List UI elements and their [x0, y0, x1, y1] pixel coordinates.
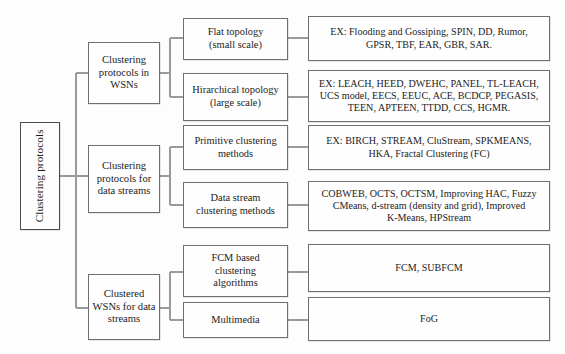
node-label: Primitive clustering methods [191, 135, 279, 160]
node-hirarchical-topology: Hirarchical topology (large scale) [183, 73, 288, 121]
clustering-protocols-diagram: Clustering protocols Clustering protocol… [0, 0, 565, 354]
node-label: Data stream clustering methods [193, 192, 278, 217]
leaf-label: COBWEB, OCTS, OCTSM, Improving HAC, Fuzz… [315, 188, 542, 225]
leaf-primitive-clustering-examples: EX: BIRCH, STREAM, CluStream, SPKMEANS, … [308, 125, 550, 170]
node-label: Hirarchical topology (large scale) [189, 84, 281, 109]
leaf-hirarchical-topology-examples: EX: LEACH, HEED, DWEHC, PANEL, TL-LEACH,… [308, 70, 550, 122]
leaf-label: EX: BIRCH, STREAM, CluStream, SPKMEANS, … [320, 135, 537, 160]
leaf-data-stream-clustering-examples: COBWEB, OCTS, OCTSM, Improving HAC, Fuzz… [308, 181, 550, 231]
node-label: Clustering protocols for data streams [94, 160, 154, 199]
node-clustering-protocols-for-data-streams: Clustering protocols for data streams [88, 145, 160, 213]
node-flat-topology: Flat topology (small scale) [183, 18, 288, 60]
node-root-label: Clustering protocols [33, 126, 47, 225]
node-clustered-wsns-for-data-streams: Clustered WSNs for data streams [88, 274, 160, 340]
leaf-flat-topology-examples: EX: Flooding and Gossiping, SPIN, DD, Ru… [308, 16, 550, 61]
node-fcm-based-clustering-algorithms: FCM based clustering algorithms [183, 245, 288, 297]
node-primitive-clustering-methods: Primitive clustering methods [183, 125, 288, 170]
node-label: Clustering protocols in WSNs [96, 54, 152, 93]
node-label: FCM based clustering algorithms [208, 252, 262, 290]
leaf-fcm-examples: FCM, SUBFCM [308, 244, 550, 292]
node-label: Multimedia [208, 314, 262, 327]
node-label: Clustered WSNs for data streams [90, 288, 159, 327]
node-clustering-protocols-in-wsns: Clustering protocols in WSNs [88, 42, 160, 104]
leaf-multimedia-examples: FoG [308, 297, 550, 341]
node-label: Flat topology (small scale) [205, 26, 267, 51]
leaf-label: FCM, SUBFCM [389, 262, 468, 274]
node-data-stream-clustering-methods: Data stream clustering methods [183, 182, 288, 228]
node-root-clustering-protocols: Clustering protocols [20, 122, 60, 230]
leaf-label: EX: LEACH, HEED, DWEHC, PANEL, TL-LEACH,… [313, 78, 545, 115]
leaf-label: EX: Flooding and Gossiping, SPIN, DD, Ru… [324, 26, 534, 51]
node-multimedia: Multimedia [183, 302, 288, 338]
leaf-label: FoG [414, 313, 444, 325]
